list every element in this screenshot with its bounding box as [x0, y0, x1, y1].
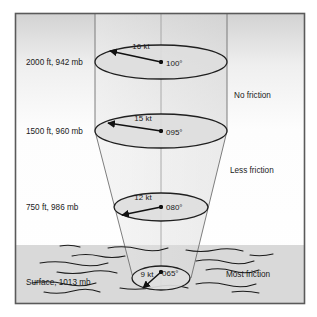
- level-750ft-label: 750 ft, 986 mb: [26, 203, 79, 212]
- wind-friction-diagram: 2000 ft, 942 mb 16 kt 100° 1500 ft, 960 …: [0, 0, 317, 317]
- level-2000ft-speed-label: 16 kt: [132, 42, 150, 51]
- level-2000ft-direction-label: 100°: [166, 59, 183, 68]
- diagram-canvas: 2000 ft, 942 mb 16 kt 100° 1500 ft, 960 …: [0, 0, 317, 317]
- level-750ft-speed-label: 12 kt: [134, 193, 152, 202]
- level-1500ft-direction-label: 095°: [166, 128, 183, 137]
- level-750ft-direction-label: 080°: [166, 203, 183, 212]
- level-2000ft-label: 2000 ft, 942 mb: [26, 58, 83, 67]
- level-1500ft-speed-label: 15 kt: [134, 114, 152, 123]
- level-surface-direction-label: 065°: [162, 269, 179, 278]
- friction-most-label: Most friction: [226, 270, 271, 279]
- level-1500ft-label: 1500 ft, 960 mb: [26, 127, 83, 136]
- level-surface-label: Surface, 1013 mb: [26, 278, 91, 287]
- friction-less-label: Less friction: [230, 166, 274, 175]
- friction-none-label: No friction: [234, 91, 271, 100]
- level-surface-speed-label: 9 kt: [141, 270, 155, 279]
